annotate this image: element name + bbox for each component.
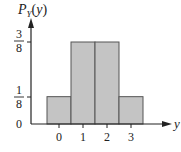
svg-text:3: 3: [16, 27, 22, 41]
pmf-chart: PY(y) 3 8 1 8 0 y 0123: [0, 0, 181, 152]
svg-text:8: 8: [16, 41, 22, 55]
svg-text:1: 1: [16, 83, 22, 97]
y-axis-arrow-icon: [28, 18, 34, 28]
svg-text:8: 8: [16, 97, 22, 111]
x-tick-label-1: 1: [80, 130, 86, 144]
x-axis-arrow-icon: [162, 121, 172, 127]
x-axis-label: y: [172, 116, 180, 131]
bar-0: [47, 97, 71, 124]
bar-2: [95, 42, 119, 124]
bars-group: [47, 42, 143, 124]
y-tick-label-3-8: 3 8: [14, 27, 24, 55]
y-axis-label: PY(y): [17, 2, 47, 19]
y-tick-label-1-8: 1 8: [14, 83, 24, 111]
x-tick-label-2: 2: [104, 130, 110, 144]
x-tick-labels: 0123: [56, 130, 134, 144]
x-tick-label-3: 3: [128, 130, 134, 144]
x-tick-label-0: 0: [56, 130, 62, 144]
y-tick-label-0: 0: [16, 117, 22, 131]
bar-3: [119, 97, 143, 124]
bar-1: [71, 42, 95, 124]
